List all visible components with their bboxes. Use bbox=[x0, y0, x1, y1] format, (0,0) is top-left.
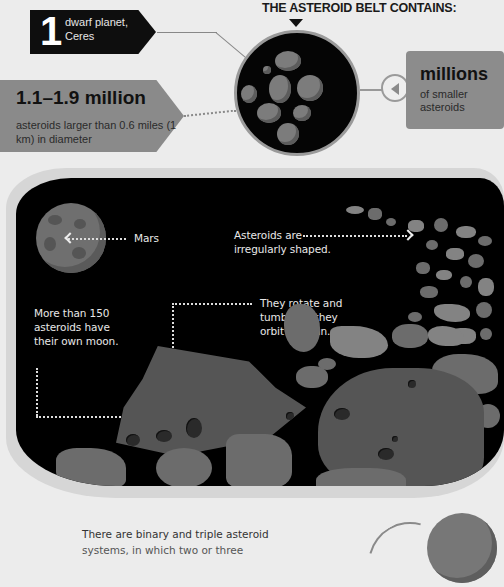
space-panel: Mars Asteroids are irregularly shaped. T… bbox=[16, 178, 504, 486]
rotate-pointer-line bbox=[172, 303, 252, 305]
belt-connector-line bbox=[360, 89, 382, 91]
crater-icon bbox=[378, 448, 394, 460]
asteroid-icon bbox=[416, 262, 430, 274]
mars-pointer-line bbox=[68, 238, 126, 240]
rock-icon bbox=[275, 51, 301, 71]
asteroid-icon bbox=[480, 328, 492, 340]
asteroid-icon bbox=[316, 468, 406, 486]
large-asteroids-count: 1.1–1.9 million bbox=[16, 87, 146, 109]
asteroid-icon bbox=[478, 278, 494, 296]
asteroid-icon bbox=[446, 248, 464, 260]
binary-systems-text-line2: systems, in which two or three bbox=[82, 544, 243, 556]
crater-icon bbox=[126, 434, 140, 446]
rock-icon bbox=[263, 66, 271, 74]
crater-icon bbox=[286, 412, 294, 420]
ceres-label: dwarf planet, Ceres bbox=[65, 15, 128, 43]
rock-icon bbox=[297, 75, 323, 101]
asteroid-icon bbox=[460, 276, 472, 288]
large-asteroids-desc: asteroids larger than 0.6 miles (1 km) i… bbox=[16, 118, 186, 146]
large-asteroids-connector bbox=[184, 110, 236, 117]
asteroid-icon bbox=[346, 206, 364, 214]
asteroid-icon bbox=[386, 218, 396, 226]
asteroid-icon bbox=[284, 304, 320, 352]
moon-pointer-line-vertical bbox=[36, 368, 38, 416]
triangle-down-icon bbox=[289, 19, 303, 27]
asteroid-icon bbox=[420, 286, 438, 298]
asteroid-belt-circle bbox=[234, 30, 360, 156]
infographic-title: THE ASTEROID BELT CONTAINS: bbox=[262, 1, 456, 15]
small-asteroids-desc: of smaller asteroids bbox=[420, 88, 500, 114]
crater-icon bbox=[408, 380, 416, 388]
asteroid-icon bbox=[434, 304, 470, 322]
asteroid-icon bbox=[426, 240, 438, 250]
crater-icon bbox=[186, 418, 202, 438]
asteroid-icon bbox=[156, 448, 212, 486]
asteroid-icon bbox=[456, 226, 476, 238]
rock-icon bbox=[257, 103, 281, 123]
asteroid-icon bbox=[408, 312, 422, 322]
asteroid-icon bbox=[392, 324, 428, 348]
crater-icon bbox=[334, 408, 350, 420]
rock-icon bbox=[293, 105, 311, 121]
asteroid-icon bbox=[434, 218, 448, 232]
asteroid-icon bbox=[56, 448, 126, 486]
ceres-label-line2: Ceres bbox=[65, 29, 128, 43]
crater-icon bbox=[392, 436, 398, 442]
ceres-label-line1: dwarf planet, bbox=[65, 15, 128, 29]
asteroid-icon bbox=[330, 326, 388, 358]
asteroid-icon bbox=[296, 366, 328, 388]
asteroid-icon bbox=[408, 220, 424, 232]
asteroid-icon bbox=[468, 254, 484, 268]
asteroid-icon bbox=[436, 270, 452, 280]
asteroid-icon bbox=[226, 434, 292, 486]
binary-systems-text: There are binary and triple asteroid bbox=[82, 528, 269, 540]
small-asteroids-count: millions bbox=[420, 64, 488, 85]
rock-icon bbox=[269, 75, 291, 103]
irregular-pointer-line bbox=[303, 235, 407, 237]
ceres-connector-line bbox=[157, 32, 217, 33]
rock-icon bbox=[241, 85, 257, 103]
mars-label: Mars bbox=[134, 231, 159, 245]
irregular-shape-label: Asteroids are irregularly shaped. bbox=[234, 228, 344, 256]
asteroid-moon-icon bbox=[427, 513, 497, 583]
asteroid-icon bbox=[476, 302, 492, 318]
moon-label: More than 150 asteroids have their own m… bbox=[34, 306, 124, 348]
asteroid-icon bbox=[478, 236, 492, 246]
crater-icon bbox=[156, 430, 172, 442]
left-triangle-icon[interactable] bbox=[381, 74, 409, 102]
asteroid-icon bbox=[368, 208, 382, 220]
ceres-count: 1 bbox=[40, 8, 62, 54]
space-illustration: Mars Asteroids are irregularly shaped. T… bbox=[6, 168, 504, 498]
rock-icon bbox=[277, 123, 299, 145]
